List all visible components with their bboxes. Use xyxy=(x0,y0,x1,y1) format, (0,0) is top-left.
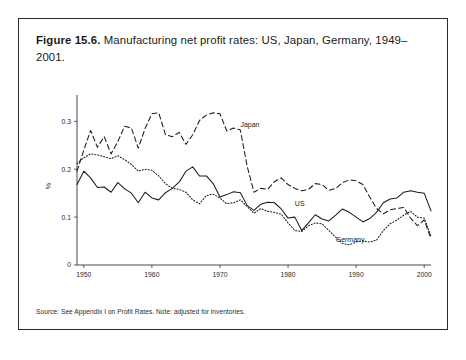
x-tick-label: 1990 xyxy=(349,271,364,278)
series-line-japan xyxy=(77,113,431,239)
profit-rates-line-chart: 00.10.20.3%195019601970198019902000USJap… xyxy=(19,19,449,331)
source-note: Source: See Appendix I on Profit Rates. … xyxy=(36,307,432,317)
x-tick-label: 2000 xyxy=(417,271,432,278)
x-tick-label: 1950 xyxy=(76,271,91,278)
y-tick-label: 0.3 xyxy=(62,118,72,125)
series-line-germany xyxy=(77,154,431,245)
x-tick-label: 1970 xyxy=(212,271,227,278)
y-axis-title: % xyxy=(44,182,53,189)
y-tick-label: 0 xyxy=(67,261,71,268)
chart-plot-area: 00.10.20.3%195019601970198019902000USJap… xyxy=(19,19,449,331)
x-tick-label: 1980 xyxy=(280,271,295,278)
y-tick-label: 0.2 xyxy=(62,166,72,173)
x-tick-label: 1960 xyxy=(144,271,159,278)
series-label-germany: Germany xyxy=(336,236,365,244)
series-label-us: US xyxy=(295,200,305,207)
series-line-us xyxy=(77,167,431,231)
y-tick-label: 0.1 xyxy=(62,214,72,221)
series-label-japan: Japan xyxy=(240,121,259,129)
figure-frame: Figure 15.6. Manufacturing net profit ra… xyxy=(18,18,448,330)
